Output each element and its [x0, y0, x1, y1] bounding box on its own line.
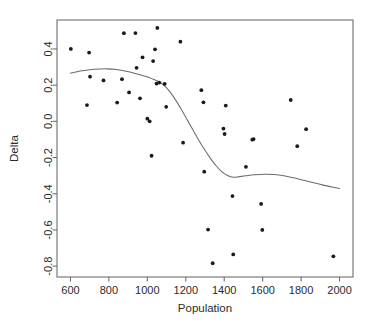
- data-point: [295, 144, 299, 148]
- x-tick-label: 800: [100, 284, 118, 296]
- data-point: [252, 137, 256, 141]
- data-point: [289, 98, 293, 102]
- data-point: [179, 40, 183, 44]
- data-point: [127, 90, 131, 94]
- x-tick-label: 1000: [135, 284, 159, 296]
- data-point: [141, 55, 145, 59]
- x-axis-label: Population: [178, 302, 232, 314]
- data-point: [151, 59, 155, 63]
- data-point: [155, 26, 159, 30]
- x-tick-label: 2000: [327, 284, 351, 296]
- data-point: [102, 79, 106, 83]
- data-point: [260, 228, 264, 232]
- data-point: [120, 77, 124, 81]
- data-point: [115, 101, 119, 105]
- data-point: [122, 31, 126, 35]
- data-point: [244, 165, 248, 169]
- data-point: [163, 82, 167, 86]
- data-point: [135, 66, 139, 70]
- data-point: [69, 47, 73, 51]
- y-tick-label: -0.8: [43, 257, 55, 276]
- y-tick-label: 0.0: [43, 114, 55, 129]
- data-point: [202, 170, 206, 174]
- data-point: [87, 51, 91, 55]
- data-point: [224, 104, 228, 108]
- data-point: [223, 132, 227, 136]
- data-point: [153, 47, 157, 51]
- data-point: [134, 31, 138, 35]
- data-point: [231, 194, 235, 198]
- y-tick-label: -0.6: [43, 220, 55, 239]
- data-point: [331, 254, 335, 258]
- y-tick-label: -0.4: [43, 184, 55, 203]
- data-point: [231, 252, 235, 256]
- x-tick-label: 1800: [289, 284, 313, 296]
- data-point: [199, 88, 203, 92]
- data-point: [222, 127, 226, 131]
- y-tick-label: 0.2: [43, 78, 55, 93]
- data-point: [164, 105, 168, 109]
- data-point: [157, 81, 161, 85]
- x-tick-label: 1600: [250, 284, 274, 296]
- y-tick-label: 0.4: [42, 41, 54, 56]
- data-point: [85, 103, 89, 107]
- data-point: [138, 96, 142, 100]
- data-point: [259, 202, 263, 206]
- x-tick-label: 1200: [174, 284, 198, 296]
- data-point: [150, 154, 154, 158]
- data-point: [206, 228, 210, 232]
- data-point: [202, 100, 206, 104]
- data-point: [211, 261, 215, 265]
- x-tick-label: 1400: [212, 284, 236, 296]
- data-point: [148, 119, 152, 123]
- scatter-plot-figure: 600800100012001400160018002000 0.40.20.0…: [0, 0, 376, 335]
- data-point: [88, 75, 92, 79]
- y-axis-label: Delta: [8, 134, 20, 161]
- x-tick-label: 600: [61, 284, 79, 296]
- data-point: [304, 127, 308, 131]
- data-point: [181, 141, 185, 145]
- y-tick-label: -0.2: [43, 148, 55, 167]
